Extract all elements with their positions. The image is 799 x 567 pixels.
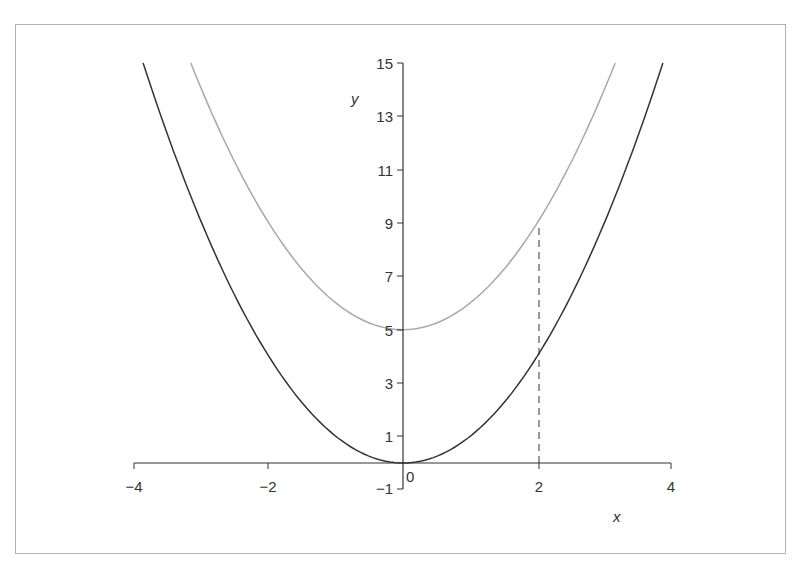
y-tick-label: 7 [385, 268, 393, 285]
x-tick-label: 4 [667, 478, 675, 495]
y-tick-label: 13 [376, 108, 393, 125]
y-axis-ticks [397, 63, 403, 489]
x-axis-label: x [612, 508, 621, 525]
y-axis-label: y [350, 90, 360, 107]
y-tick-label: 11 [377, 162, 393, 179]
x-tick-label: 2 [535, 478, 543, 495]
origin-label: 0 [406, 468, 414, 485]
y-tick-label-neg1: −1 [376, 480, 393, 497]
y-tick-label: 5 [385, 322, 393, 339]
y-tick-label: 9 [385, 215, 393, 232]
y-tick-label: 15 [376, 55, 393, 72]
y-tick-label: 3 [385, 375, 393, 392]
x-tick-label: −2 [259, 478, 276, 495]
x-tick-label: −4 [125, 478, 142, 495]
y-tick-label: 1 [385, 428, 393, 445]
chart: 15 13 11 9 7 5 3 1 −1 −4 −2 2 4 0 x y [0, 0, 799, 567]
